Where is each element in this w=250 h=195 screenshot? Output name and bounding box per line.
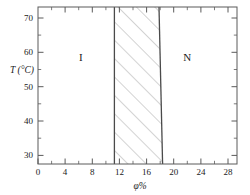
x-tick-label: 20 xyxy=(169,167,179,177)
y-tick-label: 60 xyxy=(24,47,34,57)
x-axis-tick-labels: 0 4 8 12 16 20 24 28 xyxy=(36,167,233,177)
region-label-isotropic: I xyxy=(79,51,83,63)
x-tick-label: 12 xyxy=(115,167,124,177)
biphasic-region xyxy=(114,7,162,164)
region-label-nematic: N xyxy=(183,51,191,63)
y-axis-title: T (°C) xyxy=(10,65,34,76)
y-tick-label: 70 xyxy=(24,13,34,23)
y-tick-label: 50 xyxy=(24,82,34,92)
x-axis-title: φ% xyxy=(133,181,146,191)
phase-diagram-plot: 0 4 8 12 16 20 24 28 30 40 50 60 70 T (°… xyxy=(0,0,250,195)
x-tick-label: 28 xyxy=(224,167,234,177)
x-tick-label: 0 xyxy=(36,167,41,177)
y-axis-tick-labels: 30 40 50 60 70 xyxy=(24,13,34,160)
x-tick-label: 24 xyxy=(196,167,206,177)
y-tick-label: 30 xyxy=(24,150,34,160)
phase-diagram-figure: 0 4 8 12 16 20 24 28 30 40 50 60 70 T (°… xyxy=(0,0,250,195)
x-tick-label: 4 xyxy=(63,167,68,177)
y-tick-label: 40 xyxy=(24,116,34,126)
biphasic-region-fill xyxy=(114,7,162,164)
x-tick-label: 8 xyxy=(90,167,95,177)
x-tick-label: 16 xyxy=(142,167,152,177)
